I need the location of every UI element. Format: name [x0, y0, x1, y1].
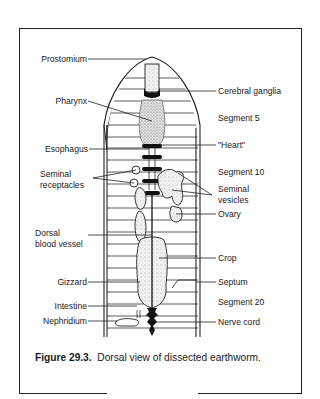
label-dorsal-blood-vessel-line2: blood vessel [35, 239, 83, 249]
label-segment-10: Segment 10 [218, 167, 264, 177]
label-segment-5: Segment 5 [218, 113, 260, 123]
label-intestine: Intestine [30, 301, 87, 311]
label-heart: "Heart" [218, 140, 245, 150]
figure-number: Figure 29.3. [35, 352, 92, 363]
label-cerebral-ganglia: Cerebral ganglia [218, 86, 281, 96]
label-nephridium: Nephridium [25, 316, 87, 326]
label-septum: Septum [218, 277, 248, 287]
label-nerve-cord: Nerve cord [218, 317, 260, 327]
label-gizzard: Gizzard [30, 277, 87, 287]
label-esophagus: Esophagus [30, 144, 88, 154]
seminal-vesicles-left [135, 188, 146, 210]
label-segment-20: Segment 20 [218, 297, 264, 307]
label-ovary: Ovary [218, 209, 241, 219]
label-seminal-receptacles-line1: Seminal [40, 169, 71, 179]
label-seminal-vesicles-line1: Seminal [218, 184, 249, 194]
figure-caption: Figure 29.3. Dorsal view of dissected ea… [35, 352, 275, 365]
label-crop: Crop [218, 253, 237, 263]
label-dorsal-blood-vessel-line1: Dorsal [35, 228, 60, 238]
label-pharynx: Pharynx [30, 96, 87, 106]
label-seminal-receptacles-line2: receptacles [40, 180, 84, 190]
label-seminal-vesicles-line2: vesicles [218, 195, 249, 205]
label-prostomium: Prostomium [30, 54, 87, 64]
pharynx [139, 100, 165, 147]
buccal-cavity [145, 64, 159, 92]
nephridium [115, 319, 138, 326]
figure-title: Dorsal view of dissected earthworm. [97, 352, 261, 363]
